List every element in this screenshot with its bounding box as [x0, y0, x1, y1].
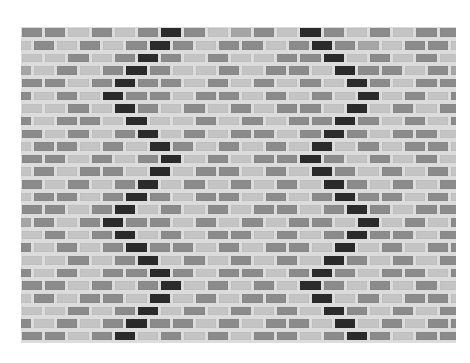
- black-accent-tile: [312, 142, 332, 151]
- gray-tile: [242, 117, 262, 126]
- gray-tile: [254, 231, 274, 240]
- black-accent-tile: [312, 269, 332, 278]
- gray-tile: [312, 319, 332, 328]
- gray-tile: [277, 155, 297, 164]
- gray-tile: [80, 142, 100, 151]
- gray-tile: [184, 205, 204, 214]
- gray-tile: [184, 28, 204, 37]
- gray-tile: [347, 180, 367, 189]
- gray-tile: [161, 130, 181, 139]
- gray-tile: [68, 281, 88, 290]
- black-accent-tile: [126, 117, 146, 126]
- gray-tile: [405, 66, 425, 75]
- gray-tile: [358, 294, 378, 303]
- black-accent-tile: [150, 142, 170, 151]
- gray-tile: [347, 256, 367, 265]
- gray-tile: [184, 256, 204, 265]
- gray-tile: [184, 281, 204, 290]
- gray-tile: [184, 307, 204, 316]
- gray-tile: [242, 167, 262, 176]
- gray-tile: [184, 180, 204, 189]
- gray-tile: [347, 28, 367, 37]
- gray-tile: [242, 269, 262, 278]
- gray-tile: [370, 155, 390, 164]
- gray-tile: [208, 180, 228, 189]
- gray-tile: [231, 307, 251, 316]
- gray-tile: [219, 218, 239, 227]
- gray-tile: [266, 243, 286, 252]
- gray-tile: [161, 79, 181, 88]
- gray-tile: [231, 281, 251, 290]
- black-accent-tile: [150, 167, 170, 176]
- gray-tile: [173, 294, 193, 303]
- black-accent-tile: [115, 79, 135, 88]
- gray-tile: [68, 180, 88, 189]
- gray-tile: [196, 294, 216, 303]
- gray-tile: [22, 281, 42, 290]
- gray-tile: [440, 180, 456, 189]
- gray-tile: [103, 142, 123, 151]
- gray-tile: [277, 180, 297, 189]
- gray-tile: [138, 281, 158, 290]
- gray-tile: [440, 79, 456, 88]
- gray-tile: [254, 54, 274, 63]
- gray-tile: [405, 41, 425, 50]
- gray-tile: [393, 79, 413, 88]
- gray-tile: [347, 54, 367, 63]
- gray-tile: [428, 294, 448, 303]
- gray-tile: [254, 130, 274, 139]
- gray-tile: [370, 307, 390, 316]
- gray-tile: [138, 205, 158, 214]
- gray-tile: [347, 155, 367, 164]
- gray-tile: [22, 205, 42, 214]
- gray-tile: [68, 54, 88, 63]
- gray-tile: [161, 205, 181, 214]
- gray-tile: [266, 294, 286, 303]
- gray-tile: [324, 231, 344, 240]
- gray-tile: [22, 79, 42, 88]
- gray-tile: [428, 243, 448, 252]
- gray-tile: [277, 79, 297, 88]
- gray-tile: [45, 256, 65, 265]
- black-accent-tile: [138, 180, 158, 189]
- black-accent-tile: [358, 92, 378, 101]
- gray-tile: [219, 41, 239, 50]
- gray-tile: [138, 155, 158, 164]
- gray-tile: [150, 92, 170, 101]
- gray-tile: [428, 319, 448, 328]
- black-accent-tile: [300, 28, 320, 37]
- gray-tile: [68, 155, 88, 164]
- gray-tile: [242, 92, 262, 101]
- black-accent-tile: [312, 167, 332, 176]
- gray-tile: [34, 243, 54, 252]
- gray-tile: [335, 41, 355, 50]
- gray-tile: [300, 104, 320, 113]
- gray-tile: [80, 41, 100, 50]
- gray-tile: [92, 155, 112, 164]
- gray-tile: [393, 54, 413, 63]
- gray-tile: [289, 294, 309, 303]
- gray-tile: [451, 167, 456, 176]
- gray-tile: [92, 281, 112, 290]
- gray-tile: [196, 167, 216, 176]
- gray-tile: [358, 66, 378, 75]
- black-accent-tile: [312, 41, 332, 50]
- gray-tile: [277, 28, 297, 37]
- gray-tile: [57, 193, 77, 202]
- gray-tile: [451, 142, 456, 151]
- gray-tile: [451, 117, 456, 126]
- gray-tile: [405, 142, 425, 151]
- gray-tile: [161, 231, 181, 240]
- gray-tile: [219, 92, 239, 101]
- gray-tile: [22, 155, 42, 164]
- gray-tile: [254, 79, 274, 88]
- gray-tile: [173, 193, 193, 202]
- gray-tile: [428, 269, 448, 278]
- black-accent-tile: [335, 319, 355, 328]
- gray-tile: [173, 92, 193, 101]
- gray-tile: [138, 332, 158, 341]
- gray-tile: [68, 307, 88, 316]
- gray-tile: [358, 117, 378, 126]
- gray-tile: [150, 117, 170, 126]
- gray-tile: [22, 54, 42, 63]
